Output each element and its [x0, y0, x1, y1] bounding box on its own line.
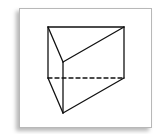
triangular-prism-figure: [0, 0, 156, 134]
edge-bottom-left: [48, 78, 63, 113]
edge-top-right: [63, 27, 124, 62]
edge-top-left: [48, 27, 63, 62]
edge-bottom-right: [63, 78, 124, 113]
